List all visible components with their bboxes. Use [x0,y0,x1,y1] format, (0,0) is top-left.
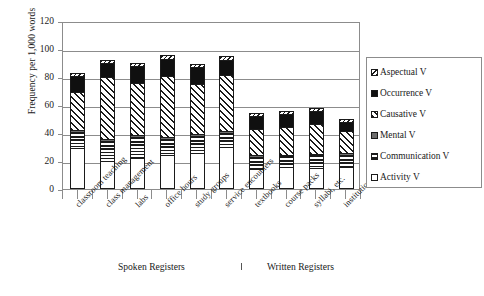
legend-swatch-aspectual-icon [371,69,378,76]
bar-segment-causative-v [279,127,294,155]
bar-segment-mental-v [309,154,324,155]
group-label-written-registers: Written Registers [267,261,334,272]
legend-item-activity-v: Activity V [371,167,481,188]
bar-segment-communication-v [160,139,175,155]
bar-segment-activity-v [70,148,85,189]
bar-segment-mental-v [339,153,354,154]
bar-segment-aspectual-v [219,56,234,60]
bar-segment-communication-v [100,141,115,161]
legend-label-activity-v: Activity V [380,173,420,182]
bar-segment-communication-v [70,132,85,149]
y-tick-label-0: 0 [20,185,54,195]
bar-segment-occurrence-v [130,66,145,83]
bar-segment-occurrence-v [160,59,175,76]
legend-label-aspectual-v: Aspectual V [380,68,426,77]
y-tick-label-100: 100 [20,45,54,55]
bar-segment-aspectual-v [130,63,145,66]
bar-service-encounters [219,56,234,189]
bar-segment-occurrence-v [190,67,205,84]
bar-segment-communication-v [339,155,354,167]
bar-segment-causative-v [70,92,85,129]
bar-segment-mental-v [100,139,115,141]
bar-segment-mental-v [130,135,145,137]
bar-segment-aspectual-v [160,55,175,59]
bar-segment-aspectual-v [279,111,294,114]
bar-segment-occurrence-v [70,76,85,93]
legend-swatch-activity-icon [371,174,378,181]
legend-item-occurrence-v: Occurrence V [371,83,481,104]
bar-study-groups [190,64,205,189]
bar-segment-activity-v [160,155,175,189]
legend-swatch-communication-icon [371,153,378,160]
legend-swatch-causative-icon [371,111,378,118]
bar-segment-mental-v [279,155,294,156]
bar-segment-causative-v [190,84,205,134]
chart-figure: Frequency per 1,000 words 02040608010012… [0,0,484,296]
y-tick-label-40: 40 [20,129,54,139]
bar-segment-communication-v [130,137,145,158]
legend-label-occurrence-v: Occurrence V [380,89,432,98]
legend-item-causative-v: Causative V [371,104,481,125]
bar-segment-occurrence-v [279,114,294,127]
x-tick-mark-3 [151,190,152,199]
bar-segment-mental-v [249,155,264,156]
bar-segment-mental-v [190,134,205,136]
legend-item-aspectual-v: Aspectual V [371,62,481,83]
legend-label-causative-v: Causative V [380,110,426,119]
y-tick-label-80: 80 [20,73,54,83]
bar-series-container [63,23,359,189]
bar-segment-mental-v [160,137,175,139]
bar-segment-aspectual-v [190,64,205,67]
x-tick-mark-0 [62,190,63,199]
bar-segment-aspectual-v [70,73,85,76]
legend: Aspectual V Occurrence V Causative V Men… [366,57,482,188]
bar-segment-aspectual-v [100,60,115,63]
bar-segment-occurrence-v [249,116,264,129]
legend-item-communication-v: Communication V [371,146,481,167]
bar-segment-aspectual-v [309,108,324,112]
bar-segment-causative-v [100,77,115,139]
bar-segment-communication-v [279,156,294,167]
bar-segment-communication-v [190,136,205,153]
bar-segment-aspectual-v [249,113,264,116]
bar-segment-causative-v [219,75,234,131]
bar-segment-causative-v [249,129,264,156]
plot-area [62,22,360,190]
y-tick-label-120: 120 [20,17,54,27]
group-label-spoken-registers: Spoken Registers [118,261,185,272]
legend-item-mental-v: Mental V [371,125,481,146]
bar-segment-mental-v [219,131,234,133]
bar-segment-occurrence-v [100,63,115,77]
legend-label-mental-v: Mental V [380,131,416,140]
bar-segment-communication-v [309,155,324,168]
bar-segment-occurrence-v [219,60,234,75]
legend-swatch-occurrence-icon [371,90,378,97]
y-tick-label-60: 60 [20,101,54,111]
bar-course-packs [279,111,294,189]
bar-segment-mental-v [70,130,85,132]
y-tick-label-20: 20 [20,157,54,167]
bar-segment-occurrence-v [309,111,324,124]
bar-office-hours [160,55,175,189]
bar-segment-communication-v [219,133,234,147]
bar-segment-causative-v [339,131,354,153]
group-divider [241,263,242,270]
bar-segment-occurrence-v [339,122,354,131]
bar-segment-causative-v [130,83,145,136]
bar-classroom-teaching [70,73,85,189]
bar-segment-causative-v [309,124,324,154]
bar-segment-causative-v [160,76,175,138]
legend-swatch-mental-icon [371,132,378,139]
legend-label-communication-v: Communication V [380,152,449,161]
bar-segment-aspectual-v [339,119,354,122]
